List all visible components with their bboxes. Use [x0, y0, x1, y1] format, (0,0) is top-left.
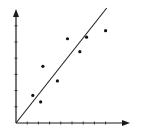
data-point: [104, 29, 107, 32]
data-point: [85, 36, 88, 39]
data-point: [56, 79, 59, 82]
trend-line: [16, 8, 107, 123]
scatter-chart: [0, 0, 142, 133]
axes: [13, 9, 130, 126]
x-axis-arrow-icon: [122, 120, 130, 126]
data-point: [41, 65, 44, 68]
data-point: [39, 100, 42, 103]
regression-line: [16, 8, 107, 123]
axis-ticks: [15, 26, 106, 125]
data-point: [66, 37, 69, 40]
data-points: [31, 29, 107, 103]
y-axis-arrow-icon: [13, 9, 19, 17]
data-point: [31, 94, 34, 97]
data-point: [78, 50, 81, 53]
